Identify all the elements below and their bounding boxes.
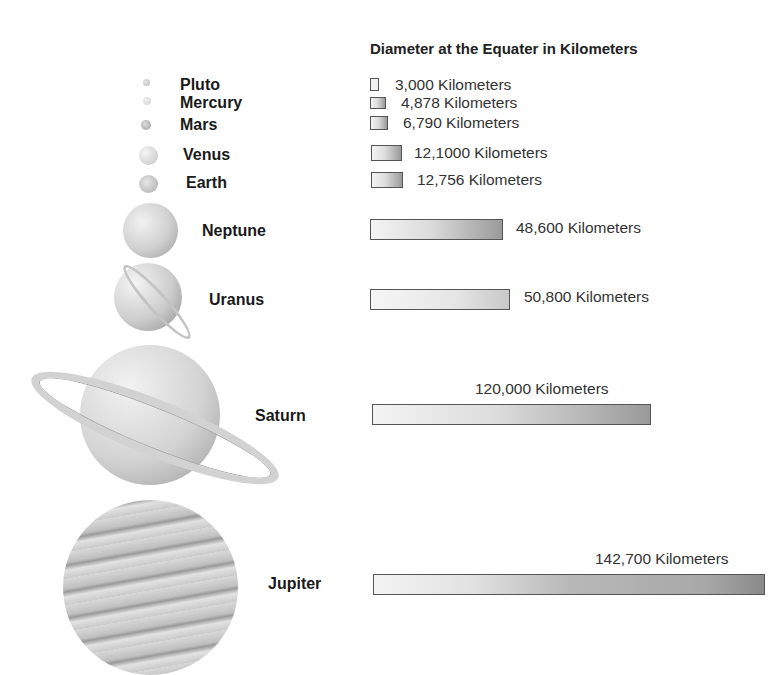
bar-pluto	[370, 78, 379, 91]
pluto-illustration	[143, 79, 150, 86]
value-label-pluto: 3,000 Kilometers	[395, 76, 511, 94]
mercury-illustration	[143, 97, 151, 105]
planet-label-neptune: Neptune	[202, 222, 266, 240]
value-label-mars: 6,790 Kilometers	[403, 114, 519, 132]
jupiter-illustration	[63, 500, 238, 675]
bar-uranus	[370, 289, 510, 310]
bar-neptune	[370, 219, 503, 240]
value-label-neptune: 48,600 Kilometers	[516, 219, 641, 237]
planet-label-mercury: Mercury	[180, 94, 242, 112]
mars-illustration	[141, 120, 151, 130]
bar-jupiter	[373, 574, 765, 595]
planet-label-earth: Earth	[186, 174, 227, 192]
value-label-jupiter: 142,700 Kilometers	[595, 550, 729, 568]
value-label-earth: 12,756 Kilometers	[417, 171, 542, 189]
neptune-illustration	[123, 203, 178, 258]
bar-mars	[370, 116, 388, 130]
planet-label-venus: Venus	[183, 146, 230, 164]
value-label-mercury: 4,878 Kilometers	[401, 94, 517, 112]
value-label-venus: 12,1000 Kilometers	[414, 144, 548, 162]
bar-saturn	[372, 404, 651, 425]
value-label-saturn: 120,000 Kilometers	[475, 380, 609, 398]
planet-label-pluto: Pluto	[180, 76, 220, 94]
planet-label-uranus: Uranus	[209, 291, 264, 309]
planet-label-jupiter: Jupiter	[268, 575, 321, 593]
earth-illustration	[139, 175, 158, 193]
bar-earth	[371, 172, 403, 188]
chart-title: Diameter at the Equater in Kilometers	[370, 40, 638, 57]
bar-venus	[371, 145, 402, 161]
venus-illustration	[139, 146, 158, 165]
planet-label-mars: Mars	[180, 116, 217, 134]
bar-mercury	[370, 97, 386, 109]
planet-label-saturn: Saturn	[255, 407, 306, 425]
value-label-uranus: 50,800 Kilometers	[524, 288, 649, 306]
